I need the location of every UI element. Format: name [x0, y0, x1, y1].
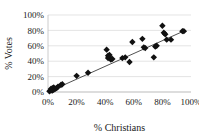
y-tick-label: 40%: [28, 56, 45, 66]
x-tick-labels: 0%20%40%60%80%100%: [42, 97, 199, 107]
y-tick-label: 20%: [28, 72, 45, 82]
y-tick-labels: 0%20%40%60%80%100%: [23, 10, 45, 97]
y-tick-label: 80%: [28, 26, 45, 36]
x-axis-title: % Christians: [94, 122, 145, 133]
y-tick-label: 60%: [28, 41, 45, 51]
x-tick-label: 80%: [154, 97, 171, 107]
scatter-chart: 0%20%40%60%80%100%0%20%40%60%80%100%% Ch…: [0, 0, 199, 136]
y-axis-title: % Votes: [3, 37, 14, 70]
x-tick-label: 20%: [68, 97, 85, 107]
chart-canvas: 0%20%40%60%80%100%0%20%40%60%80%100%% Ch…: [0, 0, 199, 136]
x-tick-label: 0%: [42, 97, 55, 107]
plot-background: [48, 15, 191, 92]
x-tick-label: 100%: [181, 97, 200, 107]
x-tick-label: 60%: [126, 97, 143, 107]
x-tick-label: 40%: [97, 97, 114, 107]
y-tick-label: 0%: [32, 87, 45, 97]
y-tick-label: 100%: [23, 10, 45, 20]
